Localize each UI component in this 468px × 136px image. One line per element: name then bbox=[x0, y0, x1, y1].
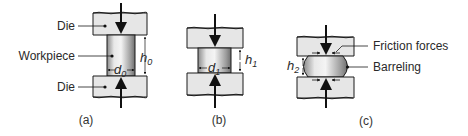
h2-label: h2 bbox=[287, 58, 299, 75]
caption-c: (c) bbox=[359, 114, 373, 128]
barreled-workpiece bbox=[304, 56, 348, 77]
upsetting-diagram: Die Workpiece Die d0 h0 (a) d1 h1 (b) bbox=[0, 0, 468, 136]
panel-c: Friction forces Barreling h2 (c) bbox=[287, 25, 448, 128]
bottom-die-label: Die bbox=[57, 80, 75, 94]
h0-label: h0 bbox=[140, 50, 152, 67]
panel-a: Die Workpiece Die d0 h0 (a) bbox=[19, 3, 153, 127]
workpiece-label: Workpiece bbox=[19, 49, 76, 63]
barreling-label: Barreling bbox=[373, 60, 421, 74]
caption-b: (b) bbox=[212, 113, 227, 127]
h1-label: h1 bbox=[245, 52, 257, 69]
panel-b: d1 h1 (b) bbox=[187, 14, 257, 127]
caption-a: (a) bbox=[79, 113, 94, 127]
top-die-label: Die bbox=[57, 19, 75, 33]
friction-forces-label: Friction forces bbox=[373, 39, 448, 53]
